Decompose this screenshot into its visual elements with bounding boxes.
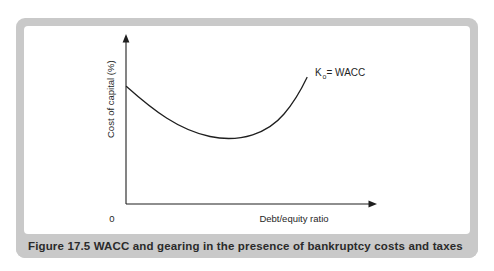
figure-caption-bar: Figure 17.5 WACC and gearing in the pres… [16,234,478,258]
figure-caption-text: Figure 17.5 WACC and gearing in the pres… [28,240,463,252]
figure-container: Cost of capital (%) Debt/equity ratio 0 … [0,0,494,271]
wacc-curve [127,78,308,139]
wacc-curve-label-main: K [315,67,322,78]
wacc-curve-label-tail: = WACC [327,67,366,78]
origin-label: 0 [109,213,114,224]
y-axis-arrowhead-icon [123,34,130,43]
x-axis-label: Debt/equity ratio [259,213,328,224]
chart-panel: Cost of capital (%) Debt/equity ratio 0 … [24,26,470,234]
wacc-gearing-chart: Cost of capital (%) Debt/equity ratio 0 … [24,26,470,234]
wacc-curve-label: K o = WACC [315,67,365,80]
y-axis-label: Cost of capital (%) [105,60,116,138]
x-axis-arrowhead-icon [369,201,378,208]
